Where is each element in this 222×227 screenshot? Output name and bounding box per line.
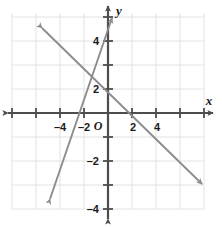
y-tick-label: –4 xyxy=(87,203,100,215)
x-tick-label: –4 xyxy=(54,121,67,133)
y-tick-label: 2 xyxy=(93,83,99,95)
graph-canvas: –4 –2 2 4 4 2 –2 –4 O x y xyxy=(0,0,222,227)
x-tick-label: –2 xyxy=(78,121,90,133)
y-tick-label: –2 xyxy=(87,155,99,167)
y-axis-label: y xyxy=(114,3,122,18)
y-tick-label: 4 xyxy=(93,35,100,47)
origin-label: O xyxy=(94,119,103,133)
x-axis-label: x xyxy=(205,93,213,108)
x-tick-label: 4 xyxy=(154,121,161,133)
x-tick-label: 2 xyxy=(130,121,136,133)
coordinate-plane-figure: –4 –2 2 4 4 2 –2 –4 O x y xyxy=(0,0,222,227)
